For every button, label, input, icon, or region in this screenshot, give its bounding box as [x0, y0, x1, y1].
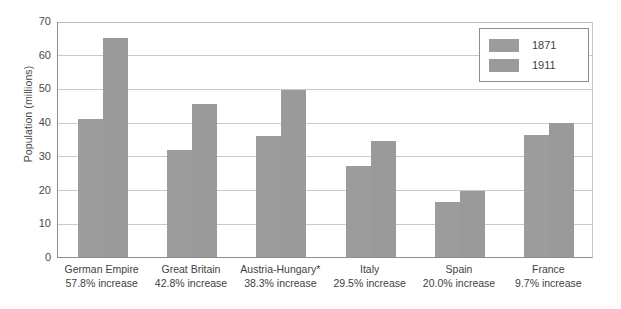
legend-label: 1871 — [532, 39, 556, 51]
bar-1911-2 — [281, 90, 306, 257]
x-axis-label-group: German Empire57.8% increase — [57, 263, 146, 290]
bar-1871-1 — [167, 150, 192, 257]
y-tick-label-0: 0 — [11, 252, 51, 263]
legend-label: 1911 — [532, 59, 556, 71]
x-axis-category-sublabel: 57.8% increase — [57, 277, 146, 291]
gridline-20 — [58, 190, 592, 191]
bar-1911-0 — [103, 38, 128, 257]
y-tick-label-30: 30 — [11, 151, 51, 162]
x-axis-category-sublabel: 9.7% increase — [504, 277, 593, 291]
legend-item-1871[interactable]: 1871 — [489, 35, 580, 55]
y-tick-label-10: 10 — [11, 218, 51, 229]
bar-1871-0 — [78, 119, 103, 257]
legend-item-1911[interactable]: 1911 — [489, 55, 580, 75]
x-axis-category-name: German Empire — [57, 263, 146, 277]
bar-1871-4 — [435, 202, 460, 257]
y-tick-label-60: 60 — [11, 50, 51, 61]
x-axis-category-name: Austria-Hungary* — [236, 263, 325, 277]
x-axis-category-sublabel: 38.3% increase — [236, 277, 325, 291]
y-tick-label-20: 20 — [11, 185, 51, 196]
x-axis-label-group: Austria-Hungary*38.3% increase — [236, 263, 325, 290]
x-axis-category-sublabel: 42.8% increase — [146, 277, 235, 291]
x-axis-label-group: Italy29.5% increase — [325, 263, 414, 290]
gridline-30 — [58, 156, 592, 157]
x-axis-label-group: Great Britain42.8% increase — [146, 263, 235, 290]
bar-1871-3 — [346, 166, 371, 257]
x-axis-category-sublabel: 29.5% increase — [325, 277, 414, 291]
gridline-50 — [58, 89, 592, 90]
gridline-10 — [58, 224, 592, 225]
bar-1871-5 — [524, 135, 549, 257]
y-tick-label-70: 70 — [11, 16, 51, 27]
bar-1871-2 — [256, 136, 281, 257]
x-axis-category-name: France — [504, 263, 593, 277]
bar-1911-4 — [460, 191, 485, 257]
gridline-40 — [58, 123, 592, 124]
x-axis-label-group: France9.7% increase — [504, 263, 593, 290]
x-axis-category-name: Spain — [414, 263, 503, 277]
x-axis-category-sublabel: 20.0% increase — [414, 277, 503, 291]
y-tick-label-50: 50 — [11, 83, 51, 94]
bar-1911-1 — [192, 104, 217, 257]
x-axis-label-group: Spain20.0% increase — [414, 263, 503, 290]
gridline-70 — [58, 22, 592, 23]
bar-1911-5 — [549, 123, 574, 257]
bar-1911-3 — [371, 141, 396, 257]
legend: 18711911 — [479, 28, 589, 82]
legend-swatch-icon — [489, 39, 519, 52]
bar-chart: Population (millions) 706050403020100 Ge… — [0, 0, 621, 309]
x-axis-category-name: Great Britain — [146, 263, 235, 277]
legend-swatch-icon — [489, 59, 519, 72]
y-tick-label-40: 40 — [11, 117, 51, 128]
x-axis-category-name: Italy — [325, 263, 414, 277]
